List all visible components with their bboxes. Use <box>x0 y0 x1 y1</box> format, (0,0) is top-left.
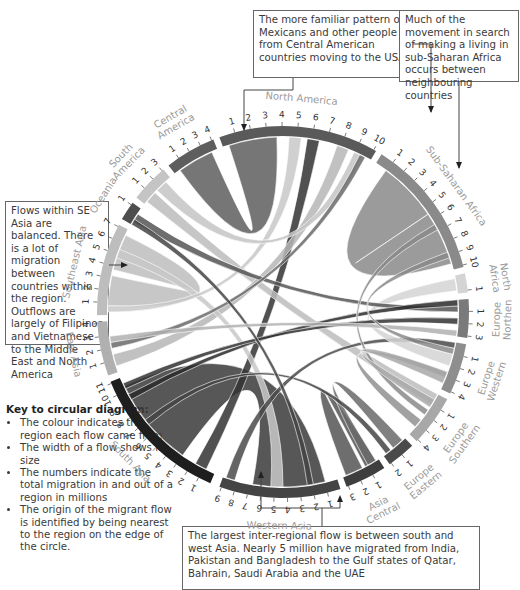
tick-label: 9 <box>360 126 370 138</box>
tick-label: 1 <box>228 116 236 127</box>
tick-label: 5 <box>91 242 102 251</box>
tick-label: 4 <box>427 178 438 189</box>
tick-label: 6 <box>312 112 320 123</box>
tick-label: 3 <box>82 335 93 342</box>
tick-label: 2 <box>313 501 320 512</box>
tick-label: 5 <box>296 110 303 120</box>
tick-label: 2 <box>393 467 403 478</box>
tick-label: 8 <box>115 419 127 430</box>
tick-label: 8 <box>344 120 353 131</box>
region-label: East Asia <box>64 331 84 378</box>
tick-label: 7 <box>123 430 134 441</box>
tick-label: 3 <box>430 432 441 443</box>
tick-label: 4 <box>81 321 91 328</box>
tick-label: 3 <box>348 491 357 502</box>
region-label: North America <box>265 90 338 107</box>
tick-label: 3 <box>417 167 428 178</box>
tick-label: 3 <box>474 334 485 341</box>
tick-label: 2 <box>361 486 370 497</box>
tick-label: 1 <box>404 458 415 469</box>
region-label: Western Asia <box>247 519 312 531</box>
tick-label: 9 <box>213 493 222 504</box>
tick-label: 1 <box>87 362 98 370</box>
tick-label: 1 <box>116 193 127 203</box>
tick-label: 10 <box>468 255 481 269</box>
tick-label: 2 <box>176 475 186 487</box>
tick-label: 2 <box>82 284 93 291</box>
tick-label: 5 <box>436 190 447 201</box>
region-label: Europe <box>490 302 502 338</box>
tick-label: 1 <box>130 175 141 186</box>
tick-label: 4 <box>421 442 432 453</box>
tick-label: 8 <box>227 497 235 508</box>
tick-label: 4 <box>456 392 468 402</box>
region-arc <box>457 299 469 338</box>
tick-label: 6 <box>445 202 457 212</box>
region-north-africa: 1NorthAfrica <box>455 262 513 294</box>
tick-label: 2 <box>466 368 477 377</box>
region-arc <box>97 321 117 375</box>
region-label: Northen <box>501 299 513 340</box>
tick-label: 7 <box>328 115 336 126</box>
region-south-america: 123SouthAmerica <box>107 141 170 204</box>
region-arc <box>455 273 468 293</box>
region-east-asia: 1234East Asia <box>64 321 118 378</box>
tick-label: 11 <box>94 381 108 395</box>
tick-label: 7 <box>452 215 464 225</box>
tick-label: 3 <box>84 270 95 278</box>
tick-label: 3 <box>461 380 472 389</box>
tick-label: 10 <box>99 393 113 408</box>
tick-label: 4 <box>203 124 212 136</box>
tick-label: 5 <box>142 450 153 461</box>
tick-label: 2 <box>84 349 95 357</box>
tick-label: 5 <box>270 504 276 514</box>
tick-label: 3 <box>190 129 200 141</box>
tick-label: 4 <box>279 109 285 119</box>
tick-label: 2 <box>438 422 449 432</box>
tick-label: 1 <box>469 355 480 363</box>
tick-label: 1 <box>474 285 485 292</box>
tick-label: 4 <box>87 256 98 264</box>
tick-label: 3 <box>299 503 306 514</box>
tick-label: 1 <box>188 482 198 494</box>
tick-label: 2 <box>139 165 150 176</box>
tick-label: 7 <box>102 216 114 226</box>
tick-label: 1 <box>475 308 485 314</box>
tick-label: 2 <box>406 157 417 168</box>
region-label: Oceania <box>87 175 119 215</box>
region-northern-europe: 123NorthenEurope <box>457 299 513 341</box>
tick-label: 1 <box>81 298 91 304</box>
tick-label: 6 <box>132 440 143 451</box>
tick-label: 3 <box>149 156 160 167</box>
tick-label: 9 <box>107 408 119 418</box>
tick-label: 9 <box>464 243 475 252</box>
tick-label: 4 <box>285 504 291 514</box>
tick-label: 8 <box>459 229 471 238</box>
tick-label: 10 <box>372 133 387 147</box>
tick-label: 1 <box>395 147 406 158</box>
flow-layer <box>108 137 458 487</box>
tick-label: 1 <box>373 479 383 491</box>
tick-label: 2 <box>178 136 188 148</box>
tick-label: 3 <box>164 468 174 479</box>
tick-label: 2 <box>244 112 251 123</box>
tick-label: 3 <box>262 110 269 120</box>
tick-label: 1 <box>445 411 457 421</box>
tick-label: 4 <box>153 459 164 471</box>
tick-label: 1 <box>167 143 177 154</box>
tick-label: 6 <box>96 229 108 238</box>
tick-label: 7 <box>241 500 249 511</box>
tick-label: 2 <box>475 321 485 327</box>
